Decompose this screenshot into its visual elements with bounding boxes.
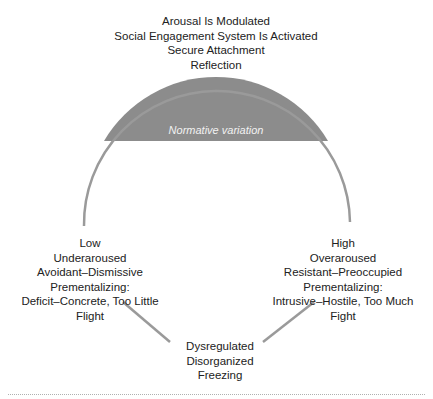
low-arousal-label: Low Underaroused Avoidant–Dismissive Pre… xyxy=(0,236,180,323)
left-line: Flight xyxy=(0,309,180,324)
normative-variation-label: Normative variation xyxy=(116,124,316,136)
bottom-line: Dysregulated xyxy=(120,339,320,354)
top-line: Secure Attachment xyxy=(66,43,366,58)
top-state-label: Arousal Is Modulated Social Engagement S… xyxy=(66,14,366,72)
left-line: Low xyxy=(0,236,180,251)
right-line: Resistant–Preoccupied xyxy=(253,265,433,280)
left-line: Avoidant–Dismissive xyxy=(0,265,180,280)
bottom-line: Freezing xyxy=(120,368,320,383)
top-line: Reflection xyxy=(66,58,366,73)
top-line: Arousal Is Modulated xyxy=(66,14,366,29)
left-line: Deficit–Concrete, Too Little xyxy=(0,294,180,309)
right-line: High xyxy=(253,236,433,251)
bottom-line: Disorganized xyxy=(120,354,320,369)
left-line: Underaroused xyxy=(0,251,180,266)
top-line: Social Engagement System Is Activated xyxy=(66,29,366,44)
right-line: Fight xyxy=(253,309,433,324)
left-line: Prementalizing: xyxy=(0,280,180,295)
dysregulated-label: Dysregulated Disorganized Freezing xyxy=(120,339,320,383)
bottom-divider xyxy=(8,394,425,395)
right-line: Intrusive–Hostile, Too Much xyxy=(253,294,433,309)
right-line: Prementalizing: xyxy=(253,280,433,295)
high-arousal-label: High Overaroused Resistant–Preoccupied P… xyxy=(253,236,433,323)
right-line: Overaroused xyxy=(253,251,433,266)
